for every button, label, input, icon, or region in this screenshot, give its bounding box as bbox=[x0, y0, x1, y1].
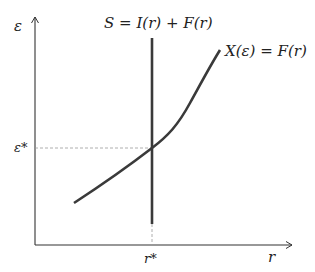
diagram-canvas: ε r S = I(r) + F(r) X(ε) = F(r) ε* r* bbox=[0, 0, 315, 272]
r-star-tick: r* bbox=[144, 251, 157, 266]
demand-curve bbox=[74, 50, 220, 203]
x-axis-label: r bbox=[268, 248, 276, 266]
epsilon-star-tick: ε* bbox=[14, 140, 28, 155]
y-axis-label: ε bbox=[14, 17, 22, 35]
curve-label: X(ε) = F(r) bbox=[224, 42, 307, 60]
supply-line-label: S = I(r) + F(r) bbox=[104, 14, 213, 32]
